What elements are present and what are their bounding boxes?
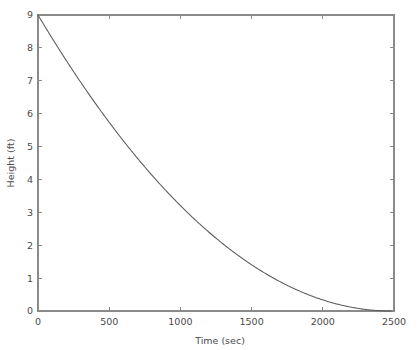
y-axis-label: Height (ft)	[5, 139, 16, 188]
line-chart: 05001000150020002500 0123456789 Time (se…	[0, 0, 420, 350]
y-tick-label: 5	[27, 141, 33, 152]
y-tick-label: 8	[27, 42, 33, 53]
y-tick-label: 3	[27, 207, 33, 218]
chart-background	[0, 0, 420, 350]
y-tick-label: 4	[27, 174, 33, 185]
figure-container: 05001000150020002500 0123456789 Time (se…	[0, 0, 420, 350]
y-tick-label: 7	[27, 75, 33, 86]
x-tick-label: 1500	[240, 316, 264, 327]
x-axis-label: Time (sec)	[194, 335, 245, 346]
x-tick-label: 500	[100, 316, 118, 327]
y-tick-label: 0	[27, 305, 33, 316]
x-tick-label: 1000	[168, 316, 192, 327]
x-tick-label: 0	[35, 316, 41, 327]
y-tick-label: 6	[27, 108, 33, 119]
x-tick-label: 2500	[382, 316, 406, 327]
x-tick-label: 2000	[311, 316, 335, 327]
y-tick-label: 1	[27, 273, 33, 284]
y-tick-label: 2	[27, 240, 33, 251]
y-tick-label: 9	[27, 9, 33, 20]
